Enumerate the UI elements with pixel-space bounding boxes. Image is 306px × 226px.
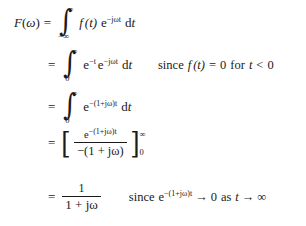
equation-line-5: = 1 1 + jω sincee−(1+jω)t→0ast→∞ [48,182,266,213]
annotation-line-5: sincee−(1+jω)t→0ast→∞ [129,190,266,205]
integral-upper-limit-1: ∞ [67,5,73,14]
equation-line-1: F(ω) = ∫ ∞ −∞ f(t) e−jωt dt [14,8,135,38]
fraction-numerator-4: e−(1+jω)t [81,129,120,142]
exponent-2b: −jωt [104,57,118,66]
integral-lower-limit-1: −∞ [58,32,69,41]
fraction-denominator-4: −(1 + jω) [74,142,127,158]
integral-glyph-wrap: ∫ ∞ 0 [62,50,78,80]
fraction-denominator-5: 1 + jω [62,196,101,213]
equals-sign-1: = [44,15,56,31]
exponential-term-3: e−(1+jω)t [83,99,117,115]
differential-1: dt [125,15,135,31]
fraction-line-4: e−(1+jω)t −(1 + jω) [74,129,127,158]
exponent-1: −jωt [107,15,121,24]
integral-lower-limit-2: 0 [65,74,69,83]
arrow-icon-1: → [192,190,211,204]
integral-lower-limit-3: 0 [65,116,69,125]
fraction-line-5: 1 1 + jω [62,182,101,213]
bracket-close-icon: ] [130,129,139,158]
equals-sign-2: = [48,57,60,73]
arrow-icon-2: → [239,190,258,204]
lhs-F-omega: F(ω) [14,15,40,31]
differential-3: dt [121,99,131,115]
exponential-term-2a: e−t [83,57,96,73]
integral-glyph-wrap: ∫ ∞ 0 [62,92,78,122]
equation-line-4: = [ e−(1+jω)t −(1 + jω) ] ∞ 0 [48,129,145,158]
equation-line-2: = ∫ ∞ 0 e−t e−jωt dt sincef(t)=0fort<0 [48,50,274,80]
equals-sign-5: = [48,189,60,205]
infinity-symbol: ∞ [257,190,266,204]
differential-2: dt [122,57,132,73]
integral-upper-limit-2: ∞ [71,47,77,56]
bracket-lower-limit: 0 [139,148,145,157]
bracketed-expression: [ e−(1+jω)t −(1 + jω) ] ∞ 0 [60,129,145,158]
integral-3: ∫ ∞ 0 [62,92,78,122]
integral-glyph-wrap: ∫ ∞ −∞ [58,8,74,38]
exponential-term-2b: e−jωt [98,57,118,73]
exponent-5: −(1+jω)t [164,189,192,198]
bracket-upper-limit: ∞ [139,130,145,139]
exponential-term-1: e−jωt [101,15,121,31]
integral-2: ∫ ∞ 0 [62,50,78,80]
annotation-line-2: sincef(t)=0fort<0 [158,58,274,73]
exponent-3: −(1+jω)t [89,99,117,108]
exponent-2a: −t [89,57,96,66]
integral-upper-limit-3: ∞ [71,89,77,98]
exponent-4: −(1+jω)t [89,127,117,136]
equals-sign-3: = [48,99,60,115]
fraction-numerator-5: 1 [76,182,88,196]
equals-sign-4: = [48,135,60,151]
integrand-f-of-t: f(t) [79,15,97,31]
math-derivation-block: F(ω) = ∫ ∞ −∞ f(t) e−jωt dt = ∫ ∞ 0 e−t [0,0,306,226]
bracket-open-icon: [ [62,129,71,158]
bracket-limits: ∞ 0 [139,129,145,158]
equation-line-3: = ∫ ∞ 0 e−(1+jω)t dt [48,92,131,122]
integral-1: ∫ ∞ −∞ [58,8,74,38]
